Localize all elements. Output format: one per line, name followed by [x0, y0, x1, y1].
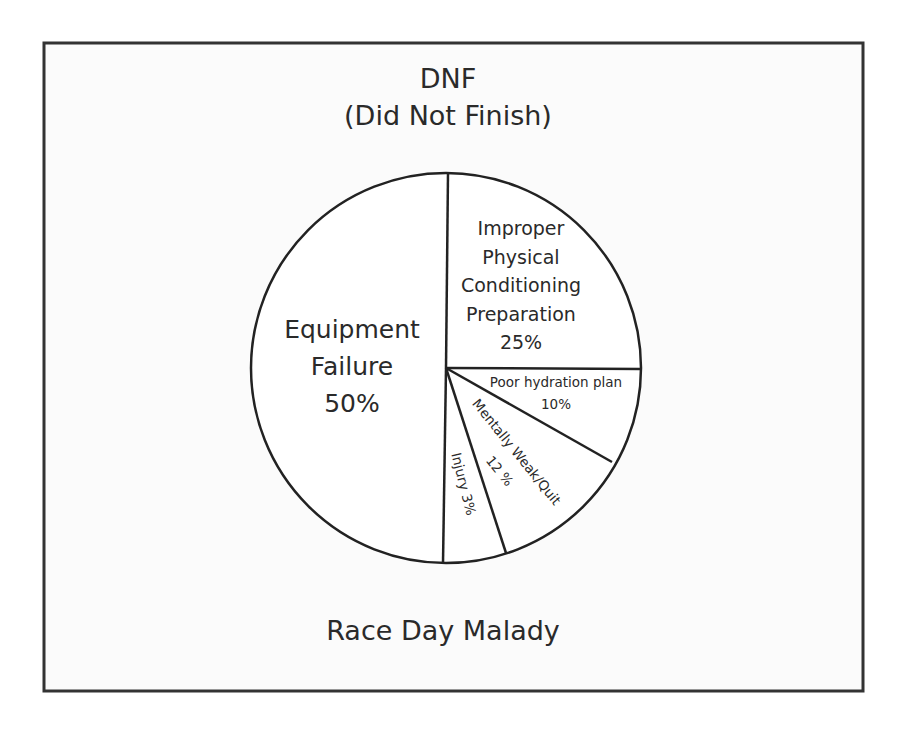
chart-title: DNF	[420, 63, 477, 94]
equipment-label-line2: Failure	[311, 352, 393, 381]
equipment-label-pct: 50%	[324, 389, 380, 418]
improper-label-line4: Preparation	[466, 303, 576, 325]
slice-boundary-right	[446, 368, 641, 369]
hydration-label-pct: 10%	[541, 396, 571, 412]
improper-label-pct: 25%	[500, 331, 542, 353]
chart-subtitle: (Did Not Finish)	[344, 100, 552, 131]
pie-chart-figure: DNF (Did Not Finish) Equipment Failure 5…	[0, 0, 905, 736]
improper-label-line3: Conditioning	[461, 274, 581, 296]
improper-label-line2: Physical	[482, 246, 559, 268]
improper-label-line1: Improper	[478, 217, 565, 239]
chart-caption: Race Day Malady	[326, 615, 560, 646]
hydration-label-line1: Poor hydration plan	[490, 374, 622, 390]
equipment-label-line1: Equipment	[284, 315, 420, 344]
